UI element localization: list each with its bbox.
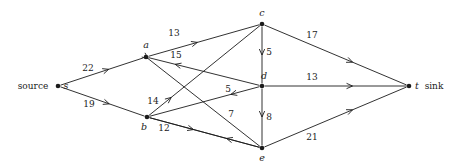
node-prefix-s: source xyxy=(18,82,49,91)
edge-capacity-c-d: 5 xyxy=(266,48,272,57)
edge-line-a-c xyxy=(149,25,260,57)
edge-c-t xyxy=(264,25,406,85)
edge-capacity-e-t: 21 xyxy=(306,133,317,142)
node-dot-a[interactable] xyxy=(144,55,149,60)
edge-d-e xyxy=(260,89,265,146)
edge-s-a xyxy=(60,58,143,85)
node-label-d: d xyxy=(261,71,267,81)
node-dot-t[interactable] xyxy=(407,84,412,89)
edge-d-t xyxy=(265,84,407,89)
flow-network-figure: ssourceabcdetsink2219131514125758171321 xyxy=(0,0,454,164)
edge-capacity-s-b: 19 xyxy=(83,100,94,109)
edge-line-e-t xyxy=(264,87,406,147)
edge-line-c-t xyxy=(264,25,406,85)
edge-a-c xyxy=(149,25,260,57)
node-dot-b[interactable] xyxy=(145,115,150,120)
node-suffix-t: sink xyxy=(425,82,444,91)
edge-capacity-d-b: 5 xyxy=(225,85,231,94)
node-label-e: e xyxy=(259,153,265,163)
node-label-t: t xyxy=(415,81,419,91)
node-dot-s[interactable] xyxy=(56,84,61,89)
node-dot-c[interactable] xyxy=(260,22,265,27)
node-label-a: a xyxy=(143,40,149,50)
edge-capacity-e-b: 7 xyxy=(228,110,234,119)
edge-capacity-d-e: 8 xyxy=(266,113,272,122)
edge-capacity-a-c: 13 xyxy=(168,29,179,38)
edge-capacity-d-t: 13 xyxy=(306,73,317,82)
edge-e-t xyxy=(264,87,406,147)
edge-capacity-c-t: 17 xyxy=(306,31,317,40)
node-label-c: c xyxy=(259,8,264,18)
edge-line-s-a xyxy=(60,58,143,85)
node-label-s: s xyxy=(64,81,69,91)
edge-capacity-b-e: 12 xyxy=(158,124,169,133)
node-dot-d[interactable] xyxy=(260,84,265,89)
edge-capacity-b-c: 14 xyxy=(147,97,158,106)
edge-s-b xyxy=(60,87,144,116)
node-dot-e[interactable] xyxy=(260,146,265,151)
edge-line-s-b xyxy=(60,87,144,116)
edge-capacity-s-a: 22 xyxy=(82,64,93,73)
node-label-b: b xyxy=(141,122,147,132)
edge-capacity-d-a: 15 xyxy=(170,51,181,60)
